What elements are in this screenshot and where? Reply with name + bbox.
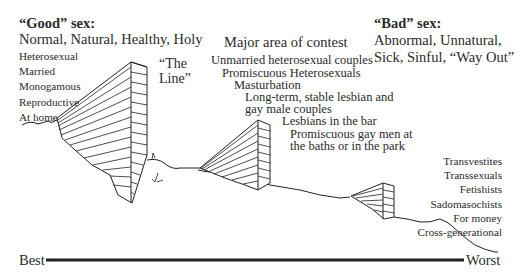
good-sex-subtitle: Normal, Natural, Healthy, Holy (19, 31, 202, 48)
bad-item: Fetishists (417, 182, 502, 196)
bad-item: Cross-generational (417, 225, 502, 239)
good-item: Monogamous (19, 79, 81, 94)
middle-wall (200, 120, 270, 190)
bad-sex-subtitle: Abnormal, Unnatural, Sick, Sinful, “Way … (374, 32, 514, 66)
good-item: Reproductive (19, 95, 81, 110)
contest-item: the baths or in the park (290, 139, 405, 154)
good-item: Married (19, 64, 81, 79)
worst-label: Worst (466, 252, 500, 269)
the-line-label: “The Line” (159, 56, 191, 86)
bad-sex-title: “Bad” sex: (374, 15, 441, 32)
bad-item: Transvestites (417, 154, 502, 168)
best-label: Best (19, 252, 45, 269)
good-item: At home (19, 110, 81, 125)
contest-title: Major area of contest (224, 34, 348, 51)
good-sex-title: “Good” sex: (19, 15, 95, 32)
bad-item: Transsexuals (417, 168, 502, 182)
good-item: Heterosexual (19, 49, 81, 64)
bad-item: For money (417, 211, 502, 225)
good-sex-list: Heterosexual Married Monogamous Reproduc… (19, 49, 81, 125)
bad-sex-list: Transvestites Transsexuals Fetishists Sa… (417, 154, 502, 239)
bad-item: Sadomasochists (417, 197, 502, 211)
